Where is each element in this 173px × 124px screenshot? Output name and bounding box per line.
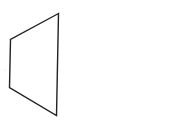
faint-mark: [4, 69, 5, 70]
quadrilateral-shape: [10, 14, 59, 116]
diagram-canvas: [0, 0, 173, 124]
diagram-svg: [0, 0, 173, 124]
